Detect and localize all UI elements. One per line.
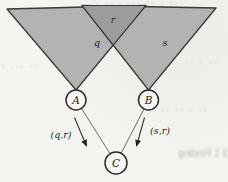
node-label-c: C — [112, 157, 120, 169]
arrow-a-c — [75, 118, 87, 147]
scanned-page: ▪ ▪▪ ▪ ▪▪▪ ▪▪ ▪ ▪▪ ▪▪ ▪ ▪▪ ▪ ▪▪▪ ▪▪ ▪▪ ▪… — [0, 0, 228, 182]
edge-label-sr: (s,r) — [150, 125, 170, 136]
region-label-q: q — [94, 37, 100, 48]
connector-a-c — [82, 109, 111, 154]
region-label-r: r — [111, 15, 116, 25]
node-label-b: B — [144, 94, 153, 106]
edge-label-qr: (q,r) — [50, 129, 71, 140]
venn-flow-diagram: q r s (q,r) (s,r) A B C — [0, 0, 228, 182]
region-label-s: s — [162, 37, 167, 48]
node-label-a: A — [71, 94, 80, 106]
